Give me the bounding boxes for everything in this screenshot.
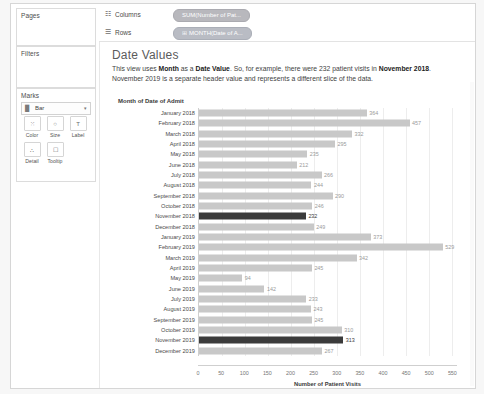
tooltip-icon: ☐ [47,142,64,157]
bar-row[interactable]: July 2018266 [199,170,457,180]
bar-row[interactable]: February 2019529 [199,242,457,252]
description-emphasis: Month [158,65,178,72]
bar-value-label: 142 [264,286,276,292]
application-window: Pages Filters Marks █ Bar ▾ ⁙ Color [0,0,484,394]
bar[interactable] [199,337,343,344]
bar-row[interactable]: November 2019313 [199,335,457,345]
pages-card-title: Pages [17,9,95,19]
worksheet-frame: Pages Filters Marks █ Bar ▾ ⁙ Color [10,3,476,389]
bar[interactable] [199,223,314,230]
marks-button-size[interactable]: ○ Size [44,116,66,140]
bar[interactable] [199,130,352,137]
bar-row[interactable]: May 201994 [199,273,457,283]
description-emphasis: November 2018 [379,65,429,72]
size-glyph: ○ [48,117,63,130]
left-rail: Pages Filters Marks █ Bar ▾ ⁙ Color [11,4,99,388]
bar[interactable] [199,151,307,158]
mark-type-dropdown[interactable]: █ Bar ▾ [21,102,91,115]
label-glyph: T [71,117,86,130]
bar-row[interactable]: September 2019245 [199,315,457,325]
bar[interactable] [199,347,322,354]
bar-row[interactable]: June 2018212 [199,160,457,170]
bar-value-label: 245 [312,317,324,323]
bar-row[interactable]: July 2019233 [199,294,457,304]
rows-icon: ☰ [105,28,111,36]
rows-shelf[interactable]: ☰ Rows ⊞MONTH(Date of A... [99,23,475,42]
bar-value-label: 290 [333,193,345,199]
description-span: . So, for example, there were 232 patien… [230,65,379,72]
pill-rows-text: MONTH(Date of A... [189,30,243,36]
bar-row[interactable]: March 2019342 [199,253,457,263]
marks-button-tooltip[interactable]: ☐ Tooltip [44,142,66,166]
bar[interactable] [199,234,371,241]
columns-shelf[interactable]: ☷ Columns SUM(Number of Pat... [99,5,475,24]
bar-row[interactable]: October 2019310 [199,325,457,335]
bar-row[interactable]: April 2018295 [199,139,457,149]
bar-row[interactable]: March 2018332 [199,129,457,139]
bar-row[interactable]: May 2018235 [199,149,457,159]
bar-row-label: August 2018 [164,182,198,188]
bar-row[interactable]: February 2018457 [199,118,457,128]
marks-button-label[interactable]: T Label [67,116,89,140]
bar[interactable] [199,120,410,127]
bar[interactable] [199,244,443,251]
bar[interactable] [199,285,264,292]
bar[interactable] [199,275,242,282]
bar[interactable] [199,265,312,272]
bar-row[interactable]: April 2019245 [199,263,457,273]
bar-value-label: 373 [371,234,383,240]
vertical-scrollbar[interactable] [470,82,474,386]
bar[interactable] [199,182,311,189]
marks-card[interactable]: Marks █ Bar ▾ ⁙ Color ○ Size [16,88,96,182]
chevron-down-icon[interactable]: ▾ [84,105,87,111]
bar[interactable] [199,141,335,148]
bar-chart: Month of Date of Admit January 2018364Fe… [100,98,471,388]
bar-row[interactable]: December 2018249 [199,222,457,232]
bar-row[interactable]: September 2018290 [199,191,457,201]
bar-row[interactable]: December 2019267 [199,346,457,356]
bar-value-label: 235 [307,151,319,157]
bar[interactable] [199,316,312,323]
filters-card[interactable]: Filters [16,46,96,88]
bar[interactable] [199,192,333,199]
bar[interactable] [199,203,312,210]
bar-row[interactable]: January 2019373 [199,232,457,242]
x-tick-label: 150 [263,370,272,376]
pill-rows-dimension[interactable]: ⊞MONTH(Date of A... [173,27,252,40]
bar-row[interactable]: June 2019142 [199,284,457,294]
x-tick-label: 450 [402,370,411,376]
color-glyph: ⁙ [25,117,40,130]
filters-card-title: Filters [17,47,95,57]
bar-row-label: August 2019 [164,306,198,312]
pill-columns-measure[interactable]: SUM(Number of Pat... [173,9,250,22]
bar[interactable] [199,327,342,334]
bar[interactable] [199,161,297,168]
marks-button-tooltip-label: Tooltip [44,158,66,164]
bar-value-label: 245 [312,265,324,271]
marks-button-color[interactable]: ⁙ Color [21,116,43,140]
x-tick-label: 400 [379,370,388,376]
marks-button-detail[interactable]: ∴ Detail [21,142,43,166]
bar-value-label: 233 [306,296,318,302]
description-emphasis: Date Value [195,65,229,72]
bar-row[interactable]: August 2018244 [199,180,457,190]
bar-row-label: June 2018 [169,162,198,168]
bar[interactable] [199,306,311,313]
bar-row-label: September 2019 [154,317,198,323]
bar-row[interactable]: October 2018246 [199,201,457,211]
bar[interactable] [199,213,306,220]
bar-row[interactable]: August 2019243 [199,304,457,314]
y-axis-title: Month of Date of Admit [118,98,184,104]
bar-row-label: May 2018 [170,151,198,157]
bar-row[interactable]: November 2018232 [199,211,457,221]
bar[interactable] [199,296,306,303]
bar-row[interactable]: January 2018364 [199,108,457,118]
bar[interactable] [199,172,322,179]
x-tick-label: 500 [425,370,434,376]
description-span: as a [179,65,196,72]
bar[interactable] [199,110,367,117]
pages-card[interactable]: Pages [16,8,96,46]
description-text: This view uses Month as a Date Value. So… [112,64,461,84]
bar[interactable] [199,254,357,261]
bar-row-label: January 2018 [161,110,198,116]
